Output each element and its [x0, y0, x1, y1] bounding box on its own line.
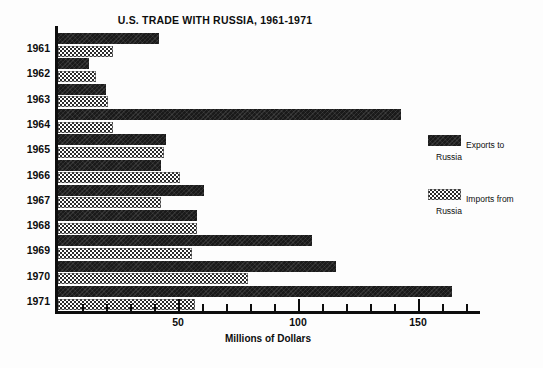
bar-fill-exports	[58, 261, 336, 272]
bar-fill-imports	[58, 248, 192, 259]
bar-imports-1970	[58, 273, 248, 284]
bar-exports-1962	[58, 58, 89, 69]
y-axis-label-1970: 1970	[0, 270, 50, 282]
x-tick-minor-120	[346, 304, 348, 311]
legend-label-exports-line2: Russia	[436, 152, 540, 164]
bar-fill-imports	[58, 122, 113, 133]
y-axis-label-1971: 1971	[0, 295, 50, 307]
legend-label-imports-line2: Russia	[436, 206, 540, 218]
bar-imports-1964	[58, 122, 113, 133]
x-tick-minor-110	[322, 304, 324, 311]
bar-fill-exports	[58, 185, 204, 196]
bar-fill-imports	[58, 46, 113, 57]
x-tick-minor-160	[442, 304, 444, 311]
chart-page: U.S. TRADE WITH RUSSIA, 1961-1971 Millio…	[0, 0, 543, 368]
y-axis-label-1968: 1968	[0, 219, 50, 231]
bar-fill-imports	[58, 299, 195, 310]
bar-fill-exports	[58, 210, 197, 221]
x-tick-minor-140	[394, 304, 396, 311]
bar-exports-1970	[58, 261, 336, 272]
y-axis-label-1962: 1962	[0, 67, 50, 79]
bar-fill-exports	[58, 286, 452, 297]
x-tick-label-150: 150	[398, 316, 438, 328]
bar-exports-1964	[58, 109, 401, 120]
y-axis-label-1969: 1969	[0, 244, 50, 256]
bar-imports-1969	[58, 248, 192, 259]
bar-fill-exports	[58, 134, 166, 145]
x-tick-minor-80	[250, 304, 252, 311]
legend-label-exports-line1: Exports to	[466, 140, 504, 150]
bar-imports-1968	[58, 223, 197, 234]
x-tick-label-50: 50	[158, 316, 198, 328]
bar-imports-1963	[58, 96, 108, 107]
y-axis-label-1966: 1966	[0, 169, 50, 181]
bar-fill-imports	[58, 96, 108, 107]
y-axis-label-1961: 1961	[0, 42, 50, 54]
x-tick-minor-90	[274, 304, 276, 311]
bar-fill-imports	[58, 172, 180, 183]
y-axis-label-1963: 1963	[0, 93, 50, 105]
legend-entry-exports: Exports to Russia	[428, 134, 540, 164]
x-axis-line	[55, 311, 480, 314]
x-tick-minor-60	[202, 304, 204, 311]
x-tick-major-150	[418, 299, 420, 311]
x-tick-minor-20	[106, 304, 108, 311]
chart-title: U.S. TRADE WITH RUSSIA, 1961-1971	[0, 14, 430, 26]
bar-fill-exports	[58, 33, 159, 44]
bar-exports-1971	[58, 286, 452, 297]
bar-fill-imports	[58, 223, 197, 234]
bar-imports-1961	[58, 46, 113, 57]
bar-fill-exports	[58, 84, 106, 95]
x-tick-minor-130	[370, 304, 372, 311]
bar-exports-1967	[58, 185, 204, 196]
bar-fill-imports	[58, 197, 161, 208]
x-tick-minor-170	[466, 304, 468, 311]
bar-exports-1969	[58, 235, 312, 246]
x-tick-minor-10	[82, 304, 84, 311]
bar-fill-exports	[58, 58, 89, 69]
bar-imports-1966	[58, 172, 180, 183]
bar-exports-1968	[58, 210, 197, 221]
y-axis-label-1964: 1964	[0, 118, 50, 130]
bar-imports-1965	[58, 147, 164, 158]
bar-fill-imports	[58, 147, 164, 158]
x-tick-minor-40	[154, 304, 156, 311]
x-tick-minor-70	[226, 304, 228, 311]
bar-exports-1966	[58, 160, 161, 171]
bar-fill-imports	[58, 71, 96, 82]
bar-fill-imports	[58, 273, 248, 284]
legend-entry-imports: Imports from Russia	[428, 188, 540, 218]
bar-fill-exports	[58, 235, 312, 246]
bar-imports-1971	[58, 299, 195, 310]
bar-exports-1963	[58, 84, 106, 95]
x-axis-title: Millions of Dollars	[58, 333, 478, 344]
x-tick-major-50	[178, 299, 180, 311]
bar-exports-1961	[58, 33, 159, 44]
chart-legend: Exports to Russia Imports from Russia	[428, 134, 540, 241]
x-tick-major-100	[298, 299, 300, 311]
bar-exports-1965	[58, 134, 166, 145]
y-axis-label-1965: 1965	[0, 143, 50, 155]
y-axis-label-1967: 1967	[0, 194, 50, 206]
legend-swatch-exports	[428, 135, 461, 146]
bar-imports-1967	[58, 197, 161, 208]
bar-imports-1962	[58, 71, 96, 82]
legend-label-imports-line1: Imports from	[466, 194, 514, 204]
legend-swatch-imports	[428, 189, 461, 200]
x-tick-label-100: 100	[278, 316, 318, 328]
bar-fill-exports	[58, 160, 161, 171]
bar-fill-exports	[58, 109, 401, 120]
x-tick-minor-30	[130, 304, 132, 311]
